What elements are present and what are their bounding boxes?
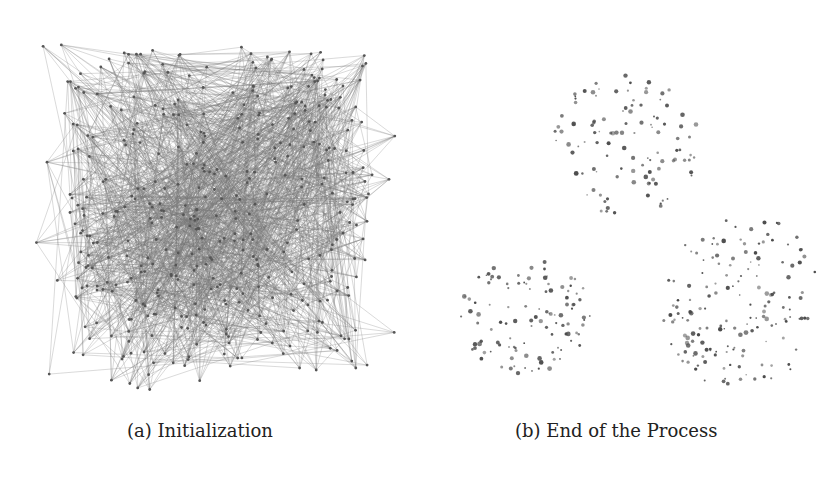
- caption-a: (a) Initialization: [127, 420, 273, 441]
- caption-b: (b) End of the Process: [515, 420, 717, 441]
- dense-graph-plot: [25, 20, 405, 400]
- panel-initialization-graph: [25, 20, 405, 400]
- panel-end-process-graph: [440, 70, 830, 410]
- clustered-nodes-plot: [440, 70, 830, 410]
